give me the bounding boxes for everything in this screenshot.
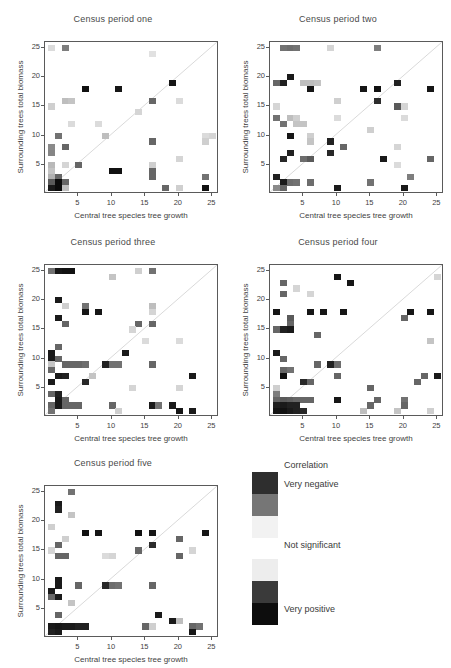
heatmap-cell (293, 285, 300, 291)
heatmap-cell (280, 356, 287, 362)
heatmap-cell (82, 530, 89, 536)
panel-title: Census period two (225, 14, 451, 24)
heatmap-cell (293, 179, 300, 185)
heatmap-cell (149, 321, 156, 327)
heatmap-cell (327, 138, 334, 144)
y-tickmark (41, 270, 44, 271)
heatmap-cell (347, 280, 354, 286)
heatmap-cell (176, 185, 183, 191)
x-tickmark (144, 193, 145, 196)
panel-title: Census period four (225, 237, 451, 247)
heatmap-cell (135, 268, 142, 274)
y-tickmark (41, 387, 44, 388)
heatmap-cell (62, 373, 69, 379)
y-tickmark (41, 105, 44, 106)
heatmap-cell (273, 80, 280, 86)
x-tickmark (211, 637, 212, 640)
y-tickmark (266, 387, 269, 388)
plot-area (44, 264, 218, 416)
y-tickmark (266, 105, 269, 106)
heatmap-cell (68, 489, 75, 495)
plot-area (269, 264, 443, 416)
panel-title: Census period one (0, 14, 226, 24)
x-tick-label: 20 (394, 198, 412, 207)
x-tick-label: 20 (394, 421, 412, 430)
heatmap-cell (280, 121, 287, 127)
y-tickmark (41, 299, 44, 300)
plot-area (44, 485, 218, 637)
heatmap-cell (176, 385, 183, 391)
heatmap-cell (196, 623, 203, 629)
panel-census-three: Census period three 510152025510152025Ce… (0, 237, 226, 453)
heatmap-cell (62, 553, 69, 559)
heatmap-cell (307, 291, 314, 297)
x-tickmark (111, 637, 112, 640)
x-tick-label: 20 (169, 421, 187, 430)
x-axis-label: Central tree species tree growth (44, 211, 218, 220)
heatmap-cell (202, 174, 209, 180)
x-tickmark (178, 637, 179, 640)
heatmap-cell (394, 408, 401, 414)
heatmap-cell (149, 542, 156, 548)
heatmap-cell (176, 408, 183, 414)
x-tick-label: 25 (202, 642, 220, 651)
x-tickmark (178, 416, 179, 419)
heatmap-cell (115, 86, 122, 92)
heatmap-cell (48, 524, 55, 530)
panel-census-one: Census period one 510152025510152025Cent… (0, 14, 226, 230)
x-tick-label: 25 (202, 421, 220, 430)
heatmap-cell (421, 373, 428, 379)
heatmap-cell (320, 309, 327, 315)
x-tick-label: 10 (102, 642, 120, 651)
heatmap-cell (176, 536, 183, 542)
y-tickmark (41, 47, 44, 48)
x-tickmark (336, 416, 337, 419)
heatmap-cell (307, 309, 314, 315)
heatmap-cell (115, 408, 122, 414)
heatmap-cell (89, 373, 96, 379)
heatmap-cell (109, 274, 116, 280)
x-axis-label: Central tree species tree growth (44, 655, 218, 664)
y-tickmark (41, 328, 44, 329)
heatmap-cell (68, 512, 75, 518)
heatmap-cell (68, 600, 75, 606)
heatmap-cell (176, 156, 183, 162)
y-axis-label: Surrounding trees total biomass (241, 264, 250, 416)
heatmap-cell (149, 268, 156, 274)
heatmap-cell (149, 138, 156, 144)
heatmap-cell (367, 385, 374, 391)
x-tick-label: 5 (293, 421, 311, 430)
x-tickmark (336, 193, 337, 196)
heatmap-cell (334, 98, 341, 104)
legend: Correlation Very negative Not significan… (252, 458, 442, 633)
heatmap-cell (55, 133, 62, 139)
diagonal-reference-line (45, 42, 217, 192)
heatmap-cell (176, 618, 183, 624)
heatmap-cell (401, 115, 408, 121)
heatmap-cell (334, 361, 341, 367)
x-tickmark (403, 193, 404, 196)
x-tickmark (436, 416, 437, 419)
heatmap-cell (327, 45, 334, 51)
heatmap-cell (407, 309, 414, 315)
heatmap-cell (280, 185, 287, 191)
y-tickmark (41, 164, 44, 165)
x-tick-label: 10 (102, 421, 120, 430)
heatmap-cell (287, 133, 294, 139)
x-tickmark (178, 193, 179, 196)
heatmap-cell (55, 594, 62, 600)
heatmap-cell (68, 98, 75, 104)
heatmap-cell (287, 326, 294, 332)
diagonal-reference-line (45, 486, 217, 636)
colorbar-segment-weak-negative (252, 516, 278, 538)
heatmap-cell (280, 373, 287, 379)
heatmap-cell (82, 623, 89, 629)
y-tickmark (266, 76, 269, 77)
heatmap-cell (287, 367, 294, 373)
heatmap-cell (300, 121, 307, 127)
heatmap-cell (280, 156, 287, 162)
y-axis-label: Surrounding trees total biomass (16, 485, 25, 637)
panel-census-four: Census period four 510152025510152025Cen… (225, 237, 451, 453)
panel-title: Census period three (0, 237, 226, 247)
heatmap-cell (427, 309, 434, 315)
